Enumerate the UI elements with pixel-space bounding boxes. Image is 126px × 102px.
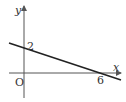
coordinate-diagram: y x O 2 6 bbox=[0, 0, 126, 102]
y-axis-label: y bbox=[14, 4, 22, 17]
graph-line bbox=[9, 43, 121, 80]
x-intercept-label: 6 bbox=[97, 74, 104, 87]
origin-label: O bbox=[15, 76, 24, 89]
x-axis-label: x bbox=[113, 61, 120, 74]
y-intercept-label: 2 bbox=[27, 40, 34, 53]
